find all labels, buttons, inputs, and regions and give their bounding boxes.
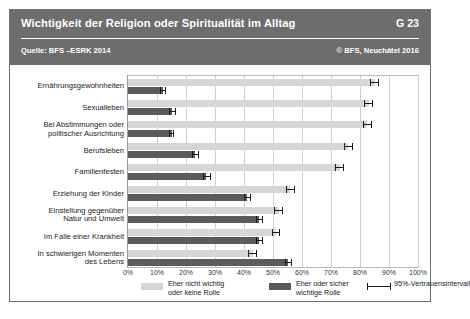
x-tick-label: 0% [123, 269, 133, 276]
category-axis-labels: ErnährungsgewohnheitenSexuallebenBei Abs… [10, 75, 124, 268]
confidence-interval [192, 151, 199, 158]
bar [128, 250, 253, 257]
confidence-interval [370, 79, 379, 86]
confidence-interval [274, 207, 283, 214]
category-label: Sexualleben [12, 104, 124, 113]
confidence-interval [335, 164, 344, 171]
category-label: Ernährungsgewohnheiten [12, 82, 124, 91]
x-tick-label: 20% [179, 269, 193, 276]
bar [128, 229, 276, 236]
x-tick-label: 60% [295, 269, 309, 276]
bar [128, 237, 259, 244]
chart-header: Wichtigkeit der Religion oder Spirituali… [10, 10, 430, 65]
bar [128, 108, 172, 115]
plot-area [127, 75, 419, 268]
confidence-interval [286, 186, 295, 193]
x-tick-label: 80% [353, 269, 367, 276]
x-tick-label: 90% [382, 269, 396, 276]
legend-swatch [141, 283, 163, 290]
bar [128, 216, 259, 223]
bar [128, 151, 195, 158]
x-tick-label: 10% [150, 269, 164, 276]
bar [128, 186, 290, 193]
x-tick-label: 40% [237, 269, 251, 276]
confidence-interval [256, 237, 263, 244]
confidence-interval [272, 229, 281, 236]
bar [128, 164, 340, 171]
confidence-interval [160, 87, 166, 94]
bar [128, 194, 247, 201]
category-label: Familienfesten [12, 168, 124, 177]
confidence-interval [203, 173, 210, 180]
bar [128, 130, 172, 137]
confidence-interval [285, 259, 292, 266]
legend-swatch [269, 283, 291, 290]
bar [128, 79, 375, 86]
x-tick-label: 100% [409, 269, 427, 276]
chart-plot: ErnährungsgewohnheitenSexuallebenBei Abs… [10, 65, 430, 303]
x-tick-label: 70% [324, 269, 338, 276]
confidence-interval [169, 108, 176, 115]
confidence-interval [363, 121, 372, 128]
source-text: Quelle: BFS –ESRK 2014 [21, 46, 110, 55]
figure-container: Wichtigkeit der Religion oder Spirituali… [9, 9, 431, 302]
confidence-interval [256, 216, 263, 223]
bar [128, 173, 206, 180]
legend-label: Eher oder sicherwichtige Rolle [296, 280, 349, 297]
bar [128, 87, 163, 94]
category-label: In schwierigen Momentendes Lebens [12, 250, 124, 267]
bar [128, 259, 288, 266]
page-title: Wichtigkeit der Religion oder Spirituali… [21, 17, 296, 29]
bar [128, 143, 348, 150]
header-divider [21, 38, 419, 39]
bar [128, 100, 369, 107]
confidence-interval [244, 194, 251, 201]
confidence-interval [344, 143, 353, 150]
bar [128, 121, 367, 128]
confidence-interval [169, 130, 175, 137]
gridline [418, 76, 419, 267]
x-tick-label: 30% [208, 269, 222, 276]
category-label: Einstellung gegenüberNatur und Umwelt [12, 207, 124, 224]
gridline [389, 76, 390, 267]
legend-label: Eher nicht wichtigoder keine Rolle [168, 280, 224, 297]
figure-code: G 23 [396, 17, 419, 29]
copyright-text: © BFS, Neuchâtel 2016 [337, 46, 419, 55]
legend-label: 95%-Vertrauensintervall [394, 280, 470, 289]
category-label: Im Falle einer Krankheit [12, 233, 124, 242]
category-label: Erziehung der Kinder [12, 190, 124, 199]
confidence-interval [248, 250, 257, 257]
category-label: Bei Abstimmungen oderpolitischer Ausrich… [12, 121, 124, 138]
bar [128, 207, 279, 214]
x-tick-label: 50% [266, 269, 280, 276]
confidence-interval [364, 100, 373, 107]
legend-errorbar-icon [367, 283, 391, 290]
category-label: Berufsleben [12, 147, 124, 156]
chart-legend: Eher nicht wichtigoder keine RolleEher o… [127, 281, 427, 303]
